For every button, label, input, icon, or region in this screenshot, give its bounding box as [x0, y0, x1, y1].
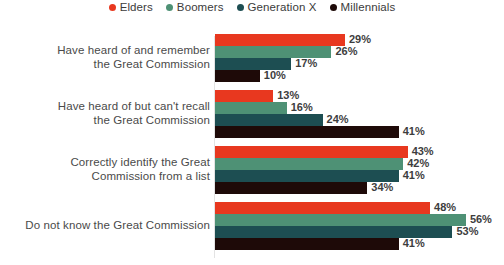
bar-boomers[interactable] — [215, 214, 466, 226]
legend-item-elders[interactable]: Elders — [109, 2, 153, 14]
bar-group: Do not know the Great Commission48%56%53… — [0, 202, 504, 250]
bar-elders[interactable] — [215, 202, 430, 214]
legend-dot-icon — [166, 4, 173, 11]
category-label-line: Correctly identify the Great — [10, 155, 210, 169]
bar-value-label: 48% — [434, 201, 456, 214]
category-label: Have heard of and rememberthe Great Comm… — [10, 43, 210, 71]
bar-value-label: 41% — [403, 237, 425, 250]
legend-item-label: Millennials — [341, 2, 396, 14]
bar-millennials[interactable] — [215, 182, 367, 194]
bar-elders[interactable] — [215, 90, 273, 102]
bar-group: Have heard of but can't recallthe Great … — [0, 90, 504, 138]
legend-dot-icon — [330, 4, 337, 11]
legend-item-label: Boomers — [177, 2, 224, 14]
bar-millennials[interactable] — [215, 126, 399, 138]
legend-item-boomers[interactable]: Boomers — [166, 2, 224, 14]
legend-dot-icon — [237, 4, 244, 11]
bar-value-label: 10% — [264, 69, 286, 82]
bar-boomers[interactable] — [215, 102, 287, 114]
bar-value-label: 41% — [403, 125, 425, 138]
bar-value-label: 53% — [456, 225, 478, 238]
legend-item-label: Elders — [120, 2, 153, 14]
legend-dot-icon — [109, 4, 116, 11]
category-label: Have heard of but can't recallthe Great … — [10, 99, 210, 127]
legend-item-label: Generation X — [248, 2, 317, 14]
category-label-line: Do not know the Great Commission — [10, 218, 210, 232]
category-label-line: the Great Commission — [10, 57, 210, 71]
bar-group: Correctly identify the GreatCommission f… — [0, 146, 504, 194]
bar-value-label: 34% — [371, 181, 393, 194]
bar-generation-x[interactable] — [215, 114, 323, 126]
plot-area: Have heard of and rememberthe Great Comm… — [0, 28, 504, 265]
bar-boomers[interactable] — [215, 158, 403, 170]
grouped-bar-chart: EldersBoomersGeneration XMillennials Hav… — [0, 0, 504, 265]
category-label-line: Have heard of and remember — [10, 43, 210, 57]
category-label-line: Commission from a list — [10, 169, 210, 183]
category-label: Correctly identify the GreatCommission f… — [10, 155, 210, 183]
category-label-line: Have heard of but can't recall — [10, 99, 210, 113]
legend-item-millennials[interactable]: Millennials — [330, 2, 396, 14]
bar-value-label: 26% — [335, 45, 357, 58]
legend-item-generation-x[interactable]: Generation X — [237, 2, 317, 14]
bar-elders[interactable] — [215, 34, 345, 46]
category-label: Do not know the Great Commission — [10, 218, 210, 232]
bar-value-label: 16% — [291, 101, 313, 114]
bar-value-label: 41% — [403, 169, 425, 182]
bar-millennials[interactable] — [215, 70, 260, 82]
bar-millennials[interactable] — [215, 238, 399, 250]
chart-legend: EldersBoomersGeneration XMillennials — [0, 2, 504, 14]
bar-value-label: 17% — [295, 57, 317, 70]
bar-value-label: 24% — [327, 113, 349, 126]
category-label-line: the Great Commission — [10, 113, 210, 127]
bar-group: Have heard of and rememberthe Great Comm… — [0, 34, 504, 82]
bar-elders[interactable] — [215, 146, 408, 158]
